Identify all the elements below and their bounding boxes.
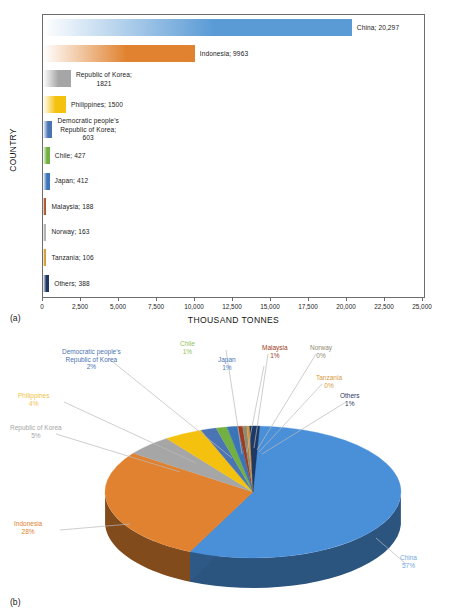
bar-chile: [43, 147, 49, 164]
bar-chart-x-axis-ticks: 02,5005,0007,50010,00012,50015,00017,500…: [42, 298, 425, 312]
bar-chart-x-axis-title: THOUSAND TONNES: [42, 315, 425, 325]
x-tick-label: 20,000: [336, 303, 356, 310]
bar-row: Indonesia; 9963: [43, 41, 423, 67]
x-tick-mark: [118, 298, 119, 301]
panel-b-caption: (b): [10, 597, 21, 607]
pie-leader-line: [64, 402, 196, 463]
pie-label-china: China 57%: [400, 554, 417, 569]
bar-label: China; 20,297: [357, 24, 399, 32]
x-tick-label: 12,500: [222, 303, 242, 310]
bar-norway: [43, 224, 46, 241]
bar-label: Tanzania; 106: [51, 254, 93, 262]
pie-label-tanzania: Tanzania 0%: [316, 374, 342, 389]
bar-row: Tanzania; 106: [43, 245, 423, 271]
x-tick-mark: [80, 298, 81, 301]
x-tick-mark: [346, 298, 347, 301]
pie-top-surface: [105, 426, 401, 558]
bar-philippines: [43, 96, 66, 113]
x-tick-label: 25,000: [412, 303, 432, 310]
bar-row: Democratic people's Republic of Korea; 6…: [43, 117, 423, 143]
bar-democratic-people-s-republic-of-korea: [43, 121, 52, 138]
x-tick-label: 0: [40, 303, 44, 310]
bar-label: Democratic people's Republic of Korea; 6…: [57, 118, 118, 143]
bar-malaysia: [43, 198, 46, 215]
bar-row: Chile; 427: [43, 143, 423, 169]
bar-label: Others; 388: [54, 279, 90, 287]
bar-row: Republic of Korea; 1821: [43, 66, 423, 92]
x-tick-label: 17,500: [298, 303, 318, 310]
bar-row: China; 20,297: [43, 15, 423, 41]
pie-label-malaysia: Malaysia 1%: [262, 344, 288, 359]
bar-row: Others; 388: [43, 271, 423, 297]
pie-label-chile: Chile 1%: [180, 340, 195, 355]
pie-label-philippines: Philippines 4%: [18, 392, 49, 407]
pie-chart-wrapper: Democratic people's Republic of Korea 2%…: [0, 332, 458, 614]
x-tick-mark: [156, 298, 157, 301]
x-tick-mark: [384, 298, 385, 301]
pie-chart-graphic: [0, 332, 458, 614]
bar-chart-y-axis-title: COUNTRY: [8, 110, 18, 190]
bar-row: Malaysia; 188: [43, 194, 423, 220]
x-tick-label: 22,500: [374, 303, 394, 310]
pie-label-republic-of-korea: Republic of Korea 5%: [10, 424, 62, 439]
x-tick-mark: [42, 298, 43, 301]
figure-panel-a-bar-chart: China; 20,297Indonesia; 9963Republic of …: [0, 0, 458, 332]
bar-row: Norway; 163: [43, 220, 423, 246]
x-tick-label: 7,500: [148, 303, 164, 310]
x-tick-label: 15,000: [260, 303, 280, 310]
bar-republic-of-korea: [43, 70, 71, 87]
bar-chart-bars-area: China; 20,297Indonesia; 9963Republic of …: [43, 15, 423, 296]
x-tick-label: 10,000: [184, 303, 204, 310]
bar-label: Republic of Korea; 1821: [76, 71, 132, 88]
x-tick-mark: [270, 298, 271, 301]
bar-label: Philippines; 1500: [71, 101, 123, 109]
bar-others: [43, 275, 49, 292]
x-tick-mark: [232, 298, 233, 301]
bar-indonesia: [43, 45, 194, 62]
bar-label: Japan; 412: [55, 177, 89, 185]
bar-china: [43, 19, 352, 36]
bar-tanzania: [43, 249, 46, 266]
pie-label-others: Others 1%: [340, 392, 360, 407]
x-tick-mark: [422, 298, 423, 301]
bar-row: Japan; 412: [43, 169, 423, 195]
pie-label-indonesia: Indonesia 28%: [14, 520, 42, 535]
pie-label-japan: Japan 1%: [218, 356, 236, 371]
x-tick-mark: [308, 298, 309, 301]
bar-label: Indonesia; 9963: [200, 49, 248, 57]
pie-label-norway: Norway 0%: [310, 344, 332, 359]
bar-label: Chile; 427: [55, 152, 86, 160]
x-tick-label: 2,500: [72, 303, 88, 310]
x-tick-label: 5,000: [110, 303, 126, 310]
x-tick-mark: [194, 298, 195, 301]
figure-panel-b-pie-chart: Democratic people's Republic of Korea 2%…: [0, 332, 458, 614]
bar-label: Malaysia; 188: [51, 203, 93, 211]
pie-label-democratic-people-s-republic-of-korea: Democratic people's Republic of Korea 2%: [62, 348, 121, 371]
panel-a-caption: (a): [10, 313, 21, 323]
bar-label: Norway; 163: [51, 228, 89, 236]
bar-row: Philippines; 1500: [43, 92, 423, 118]
bar-japan: [43, 173, 49, 190]
